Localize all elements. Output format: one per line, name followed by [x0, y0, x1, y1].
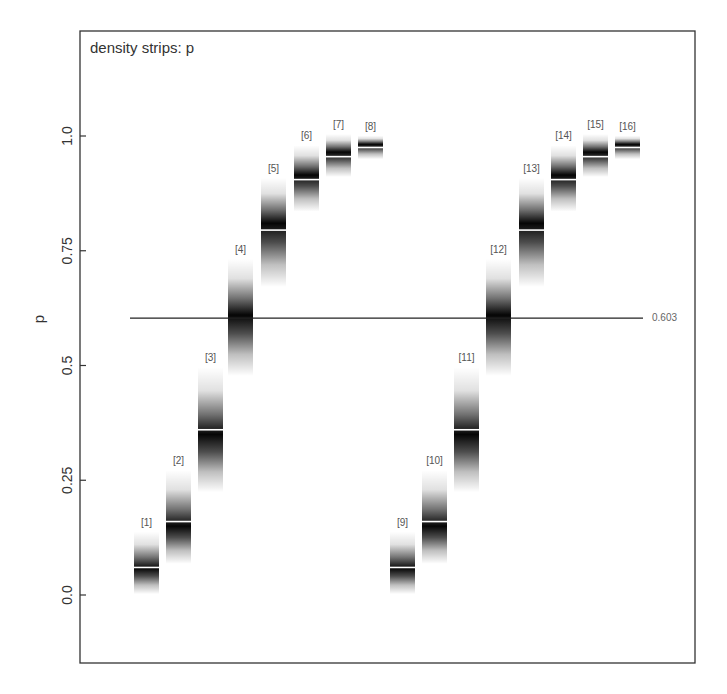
density-strip: [4] — [228, 244, 253, 376]
strip-label: [11] — [459, 352, 475, 363]
y-tick-label: 1.0 — [59, 126, 75, 146]
strip-label: [10] — [426, 455, 443, 466]
strip-label: [15] — [587, 119, 604, 130]
density-strip: [12] — [486, 244, 511, 376]
density-strips: [1][2][3][4][5][6][7][8][9][10][11][12][… — [134, 119, 640, 594]
strip-label: [14] — [555, 130, 572, 141]
strip-label: [4] — [235, 244, 246, 255]
strip-label: [13] — [523, 163, 540, 174]
y-tick-label: 0.75 — [59, 237, 75, 264]
strip-density-band — [422, 470, 447, 564]
strip-label: [12] — [490, 244, 507, 255]
density-strip: [2] — [166, 455, 191, 564]
density-strip: [13] — [519, 163, 544, 287]
density-strip: [8] — [358, 121, 383, 159]
density-strip: [14] — [551, 130, 576, 211]
strip-label: [8] — [365, 121, 376, 132]
strip-label: [2] — [173, 455, 184, 466]
density-strip: [1] — [134, 517, 159, 594]
strip-density-band — [228, 259, 253, 376]
strip-label: [5] — [268, 163, 279, 174]
strip-density-band — [486, 259, 511, 376]
strip-density-band — [390, 532, 415, 594]
strip-density-band — [294, 145, 319, 211]
density-strip: [16] — [615, 121, 640, 159]
strip-density-band — [519, 178, 544, 287]
strip-density-band — [583, 134, 608, 177]
strip-density-band — [551, 145, 576, 211]
y-tick-label: 0.5 — [59, 356, 75, 376]
strip-label: [7] — [333, 119, 344, 130]
density-strip: [15] — [583, 119, 608, 177]
density-strip: [9] — [390, 517, 415, 594]
density-strip: [5] — [261, 163, 286, 287]
y-axis: 0.00.250.50.751.0 — [59, 126, 86, 605]
strip-label: [1] — [141, 517, 152, 528]
y-tick-label: 0.0 — [59, 585, 75, 605]
density-strip: [11] — [454, 352, 479, 492]
strip-label: [16] — [619, 121, 636, 132]
reference-line-label: 0.603 — [652, 312, 677, 323]
strip-density-band — [166, 470, 191, 564]
strip-label: [6] — [301, 130, 312, 141]
strip-label: [3] — [205, 352, 216, 363]
density-strip-plot: density strips: p 0.00.250.50.751.0 p [1… — [0, 0, 727, 694]
strip-density-band — [134, 532, 159, 594]
strip-label: [9] — [397, 517, 408, 528]
chart-title: density strips: p — [90, 39, 194, 56]
y-tick-label: 0.25 — [59, 466, 75, 493]
density-strip: [10] — [422, 455, 447, 564]
density-strip: [6] — [294, 130, 319, 211]
density-strip: [3] — [198, 352, 223, 492]
y-axis-label: p — [30, 315, 47, 323]
density-strip: [7] — [326, 119, 351, 177]
strip-density-band — [326, 134, 351, 177]
strip-density-band — [261, 178, 286, 287]
